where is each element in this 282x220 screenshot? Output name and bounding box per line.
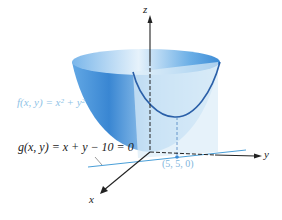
z-axis-label: z — [143, 3, 147, 15]
y-arrowhead — [254, 154, 262, 159]
point-label: (5, 5, 0) — [162, 158, 194, 169]
y-axis-label: y — [264, 148, 269, 160]
surface-function-label: f(x, y) = x² + y² — [17, 96, 85, 108]
y-axis — [215, 155, 256, 156]
x-axis — [104, 152, 150, 190]
paraboloid-diagram — [0, 0, 282, 220]
z-arrowhead — [148, 15, 153, 23]
g-label-leader — [95, 157, 102, 165]
constraint-plane — [133, 62, 218, 158]
constraint-function-label: g(x, y) = x + y − 10 = 0 — [18, 140, 134, 155]
x-axis-label: x — [89, 193, 94, 205]
